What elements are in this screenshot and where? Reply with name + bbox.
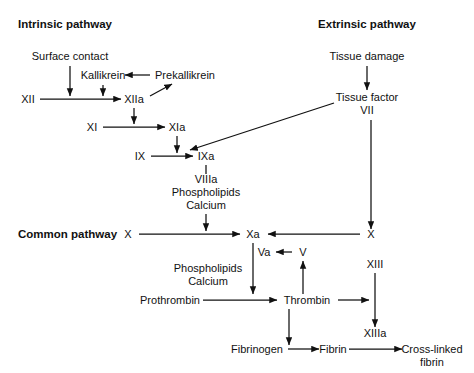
node-cofactor-phospholipids-intrinsic: Phospholipids [172,186,241,198]
node-factor-x-right: X [367,228,375,240]
node-factor-xia: XIa [169,121,186,133]
node-factor-ixa: IXa [198,150,215,162]
heading-extrinsic-pathway: Extrinsic pathway [318,18,416,30]
node-factor-va: Va [258,246,272,258]
node-factor-xiiia: XIIIa [364,327,388,339]
node-surface-contact: Surface contact [32,50,108,62]
node-kallikrein: Kallikrein [81,69,126,81]
node-factor-x-left: X [124,228,132,240]
edge-tissue-factor-to-ixa [190,103,334,150]
node-factor-vii: VII [360,104,373,116]
node-prekallikrein: Prekallikrein [155,69,215,81]
node-fibrinogen: Fibrinogen [231,343,283,355]
node-factor-xiia: XIIa [124,93,144,105]
node-cross-linked-fibrin: Cross-linked [401,343,462,355]
node-cofactor-phospholipids-common: Phospholipids [174,262,243,274]
cascade-diagram: Intrinsic pathway Extrinsic pathway Comm… [0,0,474,373]
node-fibrin: Fibrin [319,343,347,355]
heading-common-pathway: Common pathway [18,228,118,240]
node-tissue-factor: Tissue factor [336,91,399,103]
heading-intrinsic-pathway: Intrinsic pathway [18,18,113,30]
node-factor-xi: XI [87,121,97,133]
node-factor-xiii: XIII [367,258,384,270]
edge-xiia-to-prekallikrein [150,84,172,96]
node-cofactor-calcium-intrinsic: Calcium [186,199,226,211]
node-thrombin: Thrombin [284,294,330,306]
node-factor-v: V [299,246,307,258]
node-tissue-damage: Tissue damage [330,50,405,62]
node-cofactor-viiia: VIIIa [195,173,219,185]
coagulation-cascade-figure: Intrinsic pathway Extrinsic pathway Comm… [0,0,474,373]
node-cofactor-calcium-common: Calcium [188,275,228,287]
node-prothrombin: Prothrombin [140,294,200,306]
node-factor-xa: Xa [246,228,260,240]
node-factor-xii: XII [21,93,34,105]
node-factor-ix: IX [135,150,146,162]
node-cross-linked-fibrin-line2: fibrin [420,356,444,368]
